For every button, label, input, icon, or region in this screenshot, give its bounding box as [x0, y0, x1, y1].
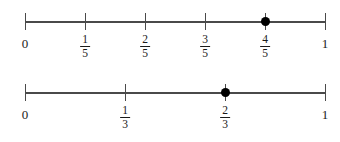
marked-point-thirds [221, 88, 230, 97]
fraction-two-thirds: 2 3 [220, 104, 230, 131]
number-line-figure: 0 1 5 2 5 3 5 4 [0, 0, 340, 142]
tick-fifths-2 [145, 13, 146, 30]
fraction-denominator: 5 [140, 47, 150, 59]
tick-label-fifths-3: 3 5 [200, 33, 210, 60]
fraction-denominator: 5 [200, 47, 210, 59]
tick-fifths-1 [85, 13, 86, 30]
tick-label-fifths-0-text: 0 [22, 33, 29, 50]
tick-label-fifths-5-text: 1 [322, 33, 329, 50]
fraction-numerator: 1 [80, 33, 90, 45]
fraction-numerator: 3 [200, 33, 210, 45]
tick-label-fifths-2: 2 5 [140, 33, 150, 60]
fraction-numerator: 4 [260, 33, 270, 45]
tick-label-fifths-4: 4 5 [260, 33, 270, 60]
tick-label-thirds-3-text: 1 [322, 104, 329, 121]
tick-fifths-5 [325, 13, 326, 30]
tick-fifths-3 [205, 13, 206, 30]
tick-label-thirds-0-text: 0 [22, 104, 29, 121]
tick-label-thirds-1: 1 3 [120, 104, 130, 131]
axis-line-thirds [25, 92, 325, 94]
fraction-numerator: 2 [140, 33, 150, 45]
tick-label-fifths-5: 1 [322, 33, 329, 50]
fraction-four-fifths: 4 5 [260, 33, 270, 60]
fraction-denominator: 3 [120, 118, 130, 130]
fraction-one-third: 1 3 [120, 104, 130, 131]
fraction-denominator: 5 [80, 47, 90, 59]
tick-thirds-0 [25, 84, 26, 101]
tick-label-thirds-0: 0 [22, 104, 29, 121]
fraction-one-fifth: 1 5 [80, 33, 90, 60]
tick-thirds-3 [325, 84, 326, 101]
tick-label-thirds-2: 2 3 [220, 104, 230, 131]
fraction-numerator: 2 [220, 104, 230, 116]
fraction-two-fifths: 2 5 [140, 33, 150, 60]
fraction-three-fifths: 3 5 [200, 33, 210, 60]
tick-label-fifths-1: 1 5 [80, 33, 90, 60]
tick-label-fifths-0: 0 [22, 33, 29, 50]
tick-thirds-1 [125, 84, 126, 101]
tick-label-thirds-3: 1 [322, 104, 329, 121]
fraction-denominator: 5 [260, 47, 270, 59]
number-line-thirds: 0 1 3 2 3 1 [0, 71, 340, 142]
marked-point-fifths [261, 17, 270, 26]
fraction-denominator: 3 [220, 118, 230, 130]
tick-fifths-0 [25, 13, 26, 30]
axis-line-fifths [25, 21, 325, 23]
number-line-fifths: 0 1 5 2 5 3 5 4 [0, 0, 340, 71]
fraction-numerator: 1 [120, 104, 130, 116]
